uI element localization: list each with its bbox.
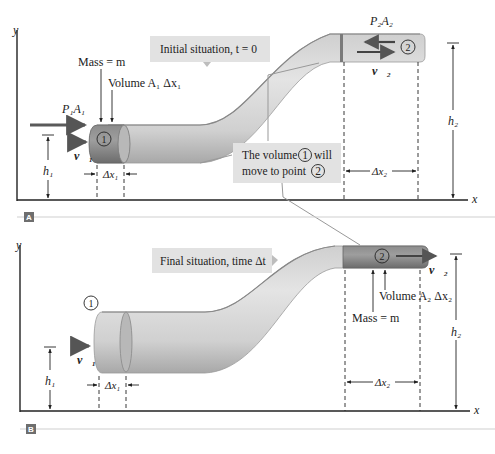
y-axis-label: y bbox=[15, 238, 22, 252]
velocity-v2-label: v⃗₂ bbox=[372, 64, 391, 78]
svg-text:1: 1 bbox=[302, 149, 308, 161]
svg-text:2: 2 bbox=[315, 165, 321, 177]
x-axis-label: x bbox=[471, 192, 478, 206]
panel-b-tag: B bbox=[26, 424, 36, 434]
mass-label: Mass = m bbox=[352, 311, 400, 325]
bernoulli-diagram: y x 1 2 P₁A₁ v⃗₁ P₂A₂ v⃗₂ Mass bbox=[0, 0, 495, 454]
callout-final-situation: Final situation, time Δt bbox=[152, 248, 278, 273]
height-h2-label: h₂ bbox=[451, 325, 461, 339]
panel-b: y x 1 2 v⃗₁ v⃗₂ Mass = m Volume A₂ Δx₂ bbox=[15, 238, 495, 434]
velocity-v1-label: v⃗₁ bbox=[77, 353, 96, 367]
svg-text:2: 2 bbox=[380, 251, 385, 262]
panel-a: y x 1 2 P₁A₁ v⃗₁ P₂A₂ v⃗₂ Mass bbox=[12, 14, 495, 245]
svg-text:will: will bbox=[314, 149, 332, 161]
svg-text:1: 1 bbox=[89, 298, 94, 309]
svg-text:2: 2 bbox=[406, 42, 411, 53]
delta-x2-label: Δx₂ bbox=[374, 376, 390, 388]
y-axis-label: y bbox=[12, 23, 19, 37]
mass-label: Mass = m bbox=[78, 55, 126, 69]
cross-section-2 bbox=[340, 34, 343, 62]
velocity-v1-label: v⃗₁ bbox=[74, 149, 93, 163]
svg-text:Final situation, time Δt: Final situation, time Δt bbox=[160, 255, 267, 268]
delta-x1-label: Δx₁ bbox=[104, 379, 120, 391]
panel-a-tag: A bbox=[24, 212, 34, 222]
force-p2a2-label: P₂A₂ bbox=[369, 14, 393, 28]
cross-section-1 bbox=[120, 312, 132, 372]
svg-text:Initial situation, t = 0: Initial situation, t = 0 bbox=[160, 43, 257, 56]
delta-x2-label: Δx₂ bbox=[371, 165, 387, 177]
x-axis-label: x bbox=[473, 403, 480, 417]
svg-text:B: B bbox=[28, 425, 34, 434]
volume-label: Volume A₂ Δx₂ bbox=[379, 289, 452, 303]
volume-label: Volume A₁ Δx₁ bbox=[108, 76, 181, 90]
height-h2-label: h₂ bbox=[448, 114, 458, 128]
height-h1-label: h₁ bbox=[45, 374, 55, 388]
svg-text:1: 1 bbox=[102, 134, 107, 145]
point-1-marker: 1 bbox=[84, 296, 98, 310]
svg-text:move to point: move to point bbox=[242, 165, 307, 178]
callout-initial-situation: Initial situation, t = 0 bbox=[150, 36, 270, 67]
svg-text:The volume: The volume bbox=[242, 149, 297, 161]
height-h1-label: h₁ bbox=[43, 164, 53, 178]
delta-x1-label: Δx₁ bbox=[102, 168, 118, 180]
force-p1a1-label: P₁A₁ bbox=[61, 102, 85, 116]
velocity-v2-label: v⃗₂ bbox=[429, 263, 448, 277]
svg-text:A: A bbox=[26, 213, 32, 222]
